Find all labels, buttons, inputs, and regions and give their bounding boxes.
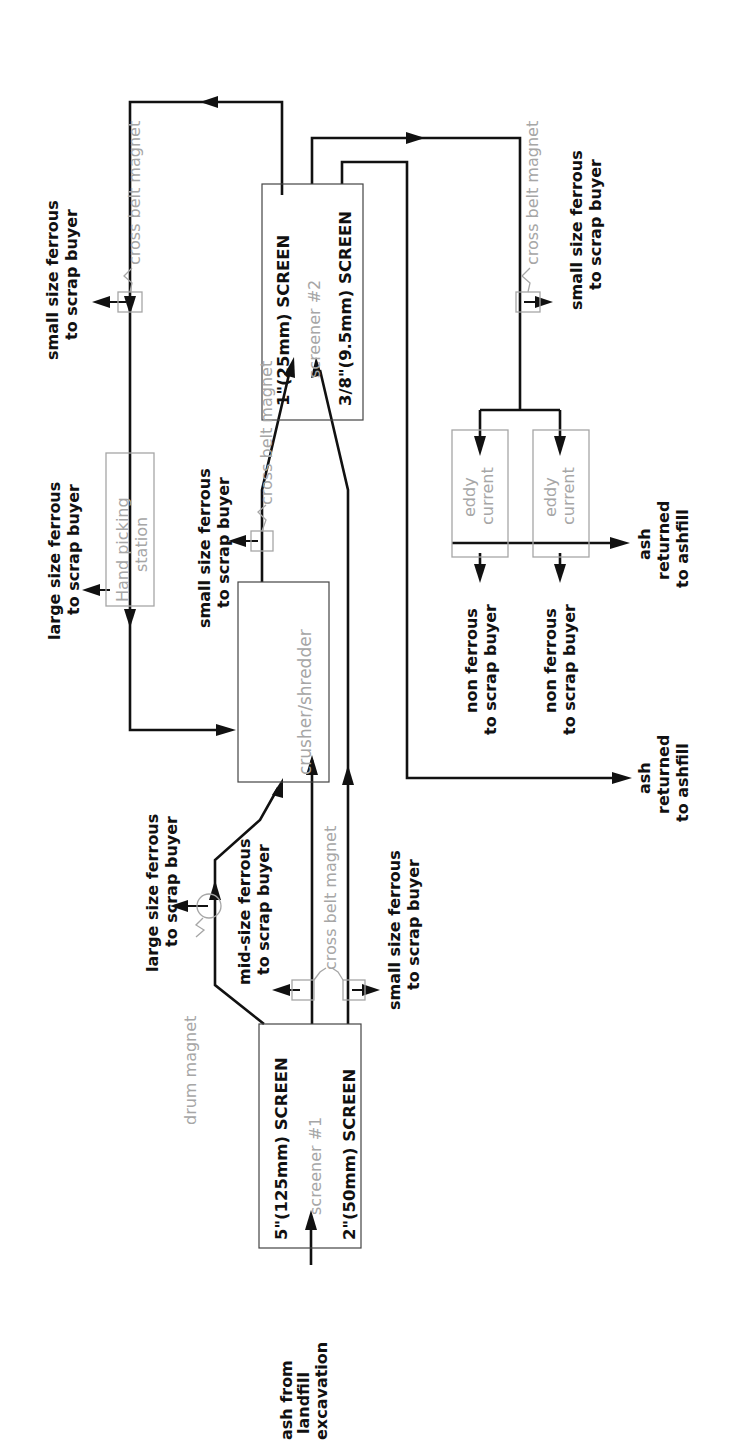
screener1-top-screen: 5"(125mm) SCREEN <box>272 1057 291 1240</box>
screener2-labels: 1"(25mm) SCREEN screener #2 3/8"(9.5mm) … <box>274 211 355 406</box>
ash-eddy-line-3: to ashfill <box>673 509 692 588</box>
cross-belt-3-label: cross belt magnet <box>125 121 144 265</box>
drum-magnet-label-group: drum magnet <box>181 1016 200 1125</box>
non-ferrous-1-label: non ferrous to scrap buyer <box>462 604 500 735</box>
eddy1-line-1: eddy <box>460 477 479 517</box>
screener2-top-screen: 1"(25mm) SCREEN <box>274 235 293 406</box>
process-flow-diagram: ash from landfill excavation 5"(125mm) S… <box>0 0 743 1446</box>
eddy-ash-arrow-icon <box>610 537 630 549</box>
oversize-up-arrow-icon <box>209 880 221 900</box>
ash-fine-line-2: returned <box>654 735 673 814</box>
eddy1-in-arrow-icon <box>474 436 486 456</box>
small-ferrous-crusher-label: small size ferrous to scrap buyer <box>195 468 233 628</box>
ash-eddy-label: ash returned to ashfill <box>635 501 692 588</box>
hand-pickoff-arrow-icon <box>82 584 100 596</box>
nonferrous1-arrow-icon <box>474 564 486 583</box>
non-ferrous-1-line-1: non ferrous <box>462 608 481 713</box>
fines-crusher-arrow-icon <box>342 765 354 785</box>
large-ferrous-drum-line-2: to scrap buyer <box>162 816 181 947</box>
input-line-3: excavation <box>312 1342 331 1440</box>
crusher-box[interactable] <box>238 582 329 782</box>
cross-belt-1-label-group: cross belt magnet <box>321 826 340 970</box>
eddy1-line-2: current <box>478 467 497 525</box>
middling-right-arrow-icon <box>406 132 425 144</box>
cross-belt-1-label: cross belt magnet <box>321 826 340 970</box>
eddy2-in-arrow-icon <box>554 436 566 456</box>
large-ferrous-drum-label: large size ferrous to scrap buyer <box>143 814 181 972</box>
small-ferrous-top-line-1: small size ferrous <box>43 200 62 360</box>
large-ferrous-drum-line-1: large size ferrous <box>143 814 162 972</box>
mid-pickoff-arrow-icon <box>272 984 290 996</box>
small-ferrous-s1-line-1: small size ferrous <box>385 850 404 1010</box>
recirc-down2-arrow-icon <box>124 609 136 628</box>
eddy-current-2-label: eddy current <box>541 467 578 525</box>
eddy-current-1-label: eddy current <box>460 467 497 525</box>
right-pickoff-arrow-icon <box>535 296 553 308</box>
large-ferrous-hand-line-2: to scrap buyer <box>64 484 83 615</box>
hand-picking-line-2: station <box>132 517 151 572</box>
ash-fine-line-3: to ashfill <box>673 743 692 822</box>
small-ferrous-right-line-1: small size ferrous <box>567 150 586 310</box>
cross-belt-3-label-group: cross belt magnet <box>125 121 144 265</box>
screener1-labels: 5"(125mm) SCREEN screener #1 2"(50mm) SC… <box>272 1057 359 1240</box>
small-ferrous-crusher-line-2: to scrap buyer <box>214 477 233 608</box>
large-ferrous-hand-line-1: large size ferrous <box>45 482 64 640</box>
cross-belt-2-label-group: cross belt magnet <box>257 361 276 505</box>
crusher-label-group: crusher/shredder <box>295 629 315 775</box>
crusher-label: crusher/shredder <box>295 629 315 775</box>
cross-belt-4-label-group: cross belt magnet <box>523 121 542 265</box>
non-ferrous-2-line-2: to scrap buyer <box>560 604 579 735</box>
recirc-left-arrow-icon <box>200 96 218 108</box>
fine-ash-arrow-icon <box>612 772 632 784</box>
small-ferrous-top-label: small size ferrous to scrap buyer <box>43 200 81 360</box>
cross-belt-2-label: cross belt magnet <box>257 361 276 505</box>
input-line-2: landfill <box>294 1372 313 1434</box>
ash-fine-line-1: ash <box>635 762 654 794</box>
hand-picking-line-1: Hand picking <box>113 497 132 602</box>
nonferrous2-arrow-icon <box>554 564 566 583</box>
drum-magnet-leader-icon <box>196 918 204 937</box>
screener2-bottom-screen: 3/8"(9.5mm) SCREEN <box>336 211 355 406</box>
labels: ash from landfill excavation 5"(125mm) S… <box>43 121 692 1440</box>
small-ferrous-s1-line-2: to scrap buyer <box>404 859 423 990</box>
small-ferrous-top-line-2: to scrap buyer <box>62 209 81 340</box>
input-label: ash from landfill excavation <box>277 1342 331 1440</box>
cross-belt-leader-5-icon <box>522 268 530 292</box>
ash-fine-label: ash returned to ashfill <box>635 735 692 822</box>
cross-belt-4-label: cross belt magnet <box>523 121 542 265</box>
large-ferrous-hand-label: large size ferrous to scrap buyer <box>45 482 83 640</box>
mid-ferrous-line-1: mid-size ferrous <box>235 839 254 986</box>
drum-magnet-label: drum magnet <box>181 1016 200 1125</box>
top-pickoff-arrow-icon <box>92 296 110 308</box>
small-ferrous-s1-label: small size ferrous to scrap buyer <box>385 850 423 1010</box>
crusher-inlet-arrow-icon <box>272 778 283 798</box>
screener2-title: screener #2 <box>305 280 324 378</box>
small-ferrous-crusher-line-1: small size ferrous <box>195 468 214 628</box>
mid-ferrous-label: mid-size ferrous to scrap buyer <box>235 839 273 986</box>
ash-eddy-line-1: ash <box>635 528 654 560</box>
crusher-side-arrow-icon <box>216 724 236 736</box>
mid-ferrous-line-2: to scrap buyer <box>254 844 273 975</box>
eddy2-line-2: current <box>559 467 578 525</box>
screener1-bottom-screen: 2"(50mm) SCREEN <box>340 1069 359 1240</box>
eddy2-line-1: eddy <box>541 477 560 517</box>
hand-picking-label: Hand picking station <box>113 497 151 602</box>
small-ferrous-right-label: small size ferrous to scrap buyer <box>567 150 605 310</box>
small-ferrous-right-line-2: to scrap buyer <box>586 159 605 290</box>
screener1-title: screener #1 <box>306 1117 325 1215</box>
non-ferrous-2-line-1: non ferrous <box>541 608 560 713</box>
non-ferrous-1-line-2: to scrap buyer <box>481 604 500 735</box>
non-ferrous-2-label: non ferrous to scrap buyer <box>541 604 579 735</box>
ash-eddy-line-2: returned <box>654 501 673 580</box>
